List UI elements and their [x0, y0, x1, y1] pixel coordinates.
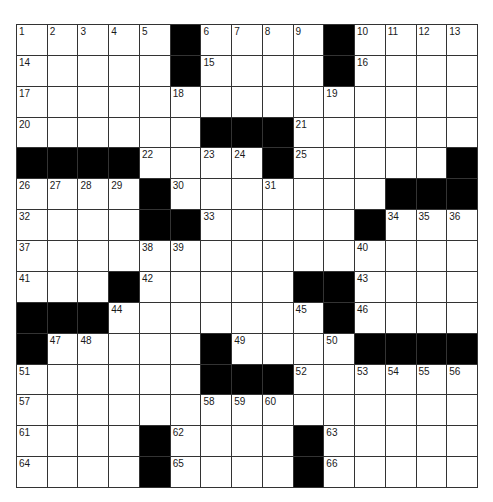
grid-cell[interactable]	[294, 210, 324, 240]
grid-cell[interactable]: 15	[201, 56, 231, 86]
grid-cell[interactable]: 63	[324, 426, 354, 456]
grid-cell[interactable]: 17	[17, 87, 47, 117]
grid-cell[interactable]	[78, 87, 108, 117]
grid-cell[interactable]: 1	[17, 25, 47, 55]
grid-cell[interactable]	[386, 395, 416, 425]
grid-cell[interactable]: 52	[294, 365, 324, 395]
grid-cell[interactable]	[78, 118, 108, 148]
grid-cell[interactable]: 57	[17, 395, 47, 425]
grid-cell[interactable]	[386, 426, 416, 456]
grid-cell[interactable]: 51	[17, 365, 47, 395]
grid-cell[interactable]	[447, 241, 477, 271]
grid-cell[interactable]	[355, 395, 385, 425]
grid-cell[interactable]	[324, 365, 354, 395]
grid-cell[interactable]	[447, 426, 477, 456]
grid-cell[interactable]: 31	[263, 179, 293, 209]
grid-cell[interactable]	[386, 148, 416, 178]
grid-cell[interactable]	[386, 457, 416, 487]
grid-cell[interactable]: 23	[201, 148, 231, 178]
grid-cell[interactable]	[355, 148, 385, 178]
grid-cell[interactable]	[263, 87, 293, 117]
grid-cell[interactable]: 43	[355, 272, 385, 302]
grid-cell[interactable]	[171, 365, 201, 395]
grid-cell[interactable]: 34	[386, 210, 416, 240]
grid-cell[interactable]	[417, 303, 447, 333]
grid-cell[interactable]	[386, 87, 416, 117]
grid-cell[interactable]	[78, 457, 108, 487]
grid-cell[interactable]: 44	[109, 303, 139, 333]
grid-cell[interactable]	[324, 179, 354, 209]
grid-cell[interactable]	[109, 365, 139, 395]
grid-cell[interactable]	[263, 272, 293, 302]
grid-cell[interactable]	[447, 303, 477, 333]
grid-cell[interactable]: 62	[171, 426, 201, 456]
grid-cell[interactable]: 55	[417, 365, 447, 395]
grid-cell[interactable]: 8	[263, 25, 293, 55]
grid-cell[interactable]	[140, 118, 170, 148]
grid-cell[interactable]: 30	[171, 179, 201, 209]
grid-cell[interactable]	[232, 457, 262, 487]
grid-cell[interactable]: 40	[355, 241, 385, 271]
grid-cell[interactable]	[324, 118, 354, 148]
grid-cell[interactable]	[355, 457, 385, 487]
grid-cell[interactable]: 2	[48, 25, 78, 55]
grid-cell[interactable]	[78, 272, 108, 302]
grid-cell[interactable]	[48, 365, 78, 395]
grid-cell[interactable]	[48, 241, 78, 271]
grid-cell[interactable]	[78, 426, 108, 456]
grid-cell[interactable]	[109, 334, 139, 364]
grid-cell[interactable]: 28	[78, 179, 108, 209]
grid-cell[interactable]	[140, 56, 170, 86]
grid-cell[interactable]: 64	[17, 457, 47, 487]
grid-cell[interactable]	[263, 426, 293, 456]
grid-cell[interactable]	[232, 56, 262, 86]
grid-cell[interactable]	[171, 334, 201, 364]
grid-cell[interactable]: 13	[447, 25, 477, 55]
grid-cell[interactable]: 27	[48, 179, 78, 209]
grid-cell[interactable]: 32	[17, 210, 47, 240]
grid-cell[interactable]	[201, 457, 231, 487]
grid-cell[interactable]	[140, 365, 170, 395]
grid-cell[interactable]: 3	[78, 25, 108, 55]
grid-cell[interactable]	[386, 303, 416, 333]
grid-cell[interactable]	[355, 87, 385, 117]
grid-cell[interactable]: 24	[232, 148, 262, 178]
grid-cell[interactable]	[447, 87, 477, 117]
grid-cell[interactable]	[355, 426, 385, 456]
grid-cell[interactable]	[263, 56, 293, 86]
grid-cell[interactable]	[171, 148, 201, 178]
grid-cell[interactable]	[386, 241, 416, 271]
grid-cell[interactable]	[109, 56, 139, 86]
grid-cell[interactable]	[294, 87, 324, 117]
grid-cell[interactable]	[201, 87, 231, 117]
grid-cell[interactable]	[232, 210, 262, 240]
grid-cell[interactable]	[324, 148, 354, 178]
grid-cell[interactable]	[294, 395, 324, 425]
grid-cell[interactable]: 7	[232, 25, 262, 55]
grid-cell[interactable]: 59	[232, 395, 262, 425]
grid-cell[interactable]	[232, 179, 262, 209]
grid-cell[interactable]	[48, 87, 78, 117]
grid-cell[interactable]	[386, 272, 416, 302]
grid-cell[interactable]	[417, 148, 447, 178]
grid-cell[interactable]	[263, 334, 293, 364]
grid-cell[interactable]	[355, 118, 385, 148]
grid-cell[interactable]: 35	[417, 210, 447, 240]
grid-cell[interactable]: 66	[324, 457, 354, 487]
grid-cell[interactable]: 14	[17, 56, 47, 86]
grid-cell[interactable]	[263, 241, 293, 271]
grid-cell[interactable]	[140, 334, 170, 364]
grid-cell[interactable]	[140, 87, 170, 117]
grid-cell[interactable]: 48	[78, 334, 108, 364]
grid-cell[interactable]	[78, 241, 108, 271]
grid-cell[interactable]: 20	[17, 118, 47, 148]
grid-cell[interactable]	[48, 426, 78, 456]
grid-cell[interactable]: 39	[171, 241, 201, 271]
grid-cell[interactable]	[109, 118, 139, 148]
grid-cell[interactable]	[171, 303, 201, 333]
grid-cell[interactable]: 4	[109, 25, 139, 55]
grid-cell[interactable]: 26	[17, 179, 47, 209]
grid-cell[interactable]	[263, 303, 293, 333]
grid-cell[interactable]: 22	[140, 148, 170, 178]
grid-cell[interactable]	[232, 87, 262, 117]
